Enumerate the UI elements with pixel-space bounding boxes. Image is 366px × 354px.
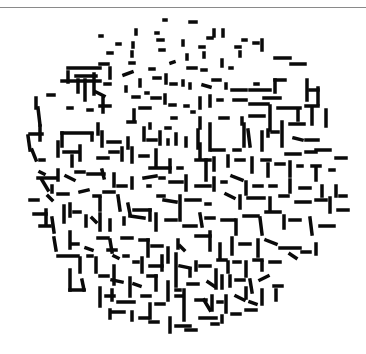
dash-segment (66, 176, 74, 180)
dash-segment (52, 218, 54, 232)
dash-segment (171, 62, 174, 63)
dash-segment (48, 196, 52, 200)
dash-segment (144, 176, 156, 178)
dash-segment (208, 282, 214, 286)
dash-segment (200, 214, 202, 226)
dash-segment (248, 130, 250, 146)
random-dash-pattern (0, 0, 366, 354)
dash-segment (118, 196, 120, 210)
dash-segment (232, 176, 242, 180)
dash-segment (294, 138, 302, 140)
dash-segment (236, 296, 244, 300)
dash-segment (86, 248, 92, 250)
dash-segment (112, 280, 122, 282)
dash-segment (226, 194, 234, 198)
dash-segment (130, 216, 144, 218)
dash-segment (180, 266, 190, 268)
dash-segment (40, 172, 44, 174)
dash-segment (266, 240, 276, 244)
dash-segment (82, 280, 84, 290)
dash-segment (164, 200, 176, 202)
dash-segment (42, 180, 48, 190)
dash-segment (260, 276, 268, 280)
dash-segment (124, 72, 132, 75)
dash-segment (102, 170, 104, 178)
dash-segment (180, 246, 184, 250)
dash-segment (134, 284, 140, 286)
dash-segment (310, 218, 312, 234)
dash-segment (290, 254, 296, 258)
dash-segment (38, 108, 40, 125)
dash-segment (114, 256, 118, 258)
dash-segment (54, 238, 56, 250)
dash-segment (96, 92, 104, 96)
dash-segment (250, 302, 256, 304)
dash-segment (260, 218, 262, 234)
dash-segment (250, 280, 252, 292)
dash-segment (32, 150, 36, 160)
dash-segment (92, 218, 96, 222)
dash-segment (128, 204, 130, 214)
dash-segment (80, 190, 88, 192)
dash-segment (28, 136, 30, 150)
dash-segment (203, 85, 210, 87)
dash-segments (28, 20, 348, 332)
